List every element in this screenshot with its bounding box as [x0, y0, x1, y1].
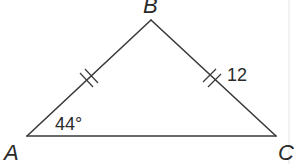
- side-bc-length-label: 12: [227, 65, 247, 85]
- vertex-label-b: B: [143, 0, 158, 18]
- angle-a-label: 44°: [55, 114, 82, 134]
- vertex-label-c: C: [278, 140, 294, 164]
- side-ab: [27, 20, 151, 136]
- vertex-label-a: A: [2, 140, 19, 164]
- triangle-diagram: B A C 44° 12: [0, 0, 294, 164]
- side-bc: [151, 20, 276, 136]
